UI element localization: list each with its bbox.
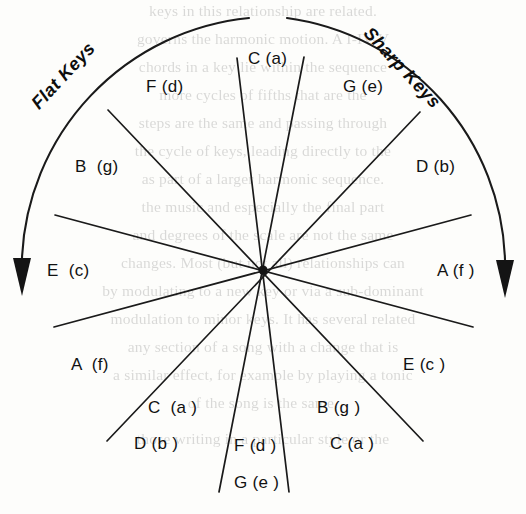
- note-label-g-e-lower: G (e ): [234, 473, 279, 493]
- note-label-b-g-lower: B (g ): [317, 398, 360, 418]
- note-label-f-d-upper: F (d): [146, 77, 183, 97]
- note-label-a-f-lower: A (f): [71, 355, 109, 375]
- note-label-d-b-upper: D (b): [416, 157, 455, 177]
- sharp-keys-arrowhead-icon: [496, 260, 514, 298]
- note-label-e-c-left: E (c): [47, 261, 89, 281]
- note-label-d-b-lower: D (b ): [134, 434, 178, 454]
- circle-of-fifths-figure: keys in this relationship are related.go…: [0, 0, 526, 514]
- note-label-c-a-lower-left: C (a ): [148, 398, 197, 418]
- note-label-g-e-upper: G (e): [343, 77, 383, 97]
- note-label-e-c-lower: E (c ): [403, 355, 445, 375]
- note-label-c-a-lower-right: C (a ): [330, 434, 374, 454]
- spoke-c-g: [219, 57, 304, 492]
- note-label-f-d-lower: F (d ): [234, 436, 276, 456]
- note-label-b-g-upper: B (g): [75, 157, 118, 177]
- hub-center: [258, 265, 267, 274]
- note-label-c-a-top: C (a): [248, 49, 287, 69]
- note-label-a-f-right: A (f ): [437, 261, 475, 281]
- flat-keys-arrowhead-icon: [13, 258, 31, 296]
